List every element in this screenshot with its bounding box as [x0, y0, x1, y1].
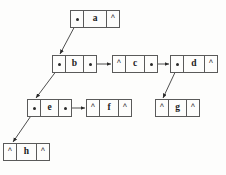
node-f[interactable]: ^f^ [86, 99, 132, 117]
nil-symbol: ^ [191, 103, 196, 111]
node-f-right-pointer: ^ [118, 100, 131, 116]
node-e-value: e [41, 100, 58, 116]
pointer-origin-dot [150, 63, 153, 66]
node-h-left-pointer: ^ [4, 144, 17, 160]
node-c-right-pointer [144, 56, 157, 72]
pointer-origin-dot [58, 63, 61, 66]
node-d-value: d [184, 56, 204, 72]
node-c[interactable]: ^c [112, 55, 158, 73]
pointer-origin-dot [76, 18, 79, 21]
node-d-left-pointer [171, 56, 184, 72]
node-e-left-pointer [28, 100, 41, 116]
nil-symbol: ^ [41, 147, 46, 155]
nil-symbol: ^ [91, 103, 96, 111]
node-g-right-pointer: ^ [186, 100, 199, 116]
node-b[interactable]: b [52, 55, 97, 73]
node-d-right-pointer: ^ [204, 56, 217, 72]
pointer-origin-dot [176, 63, 179, 66]
node-e[interactable]: e [27, 99, 72, 117]
diagram-canvas: a^b^cd^e^f^^g^^h^ [0, 0, 226, 175]
node-b-left-pointer [53, 56, 66, 72]
node-f-left-pointer: ^ [87, 100, 100, 116]
node-b-right-pointer [83, 56, 96, 72]
nil-symbol: ^ [209, 59, 214, 67]
pointer-origin-dot [89, 63, 92, 66]
node-a-right-pointer: ^ [106, 11, 119, 27]
node-d[interactable]: d^ [170, 55, 218, 73]
node-h-right-pointer: ^ [36, 144, 49, 160]
node-h-value: h [17, 144, 36, 160]
node-c-left-pointer: ^ [113, 56, 126, 72]
node-c-value: c [126, 56, 144, 72]
node-h[interactable]: ^h^ [3, 143, 50, 161]
node-a-left-pointer [71, 11, 84, 27]
node-g-left-pointer: ^ [156, 100, 169, 116]
nil-symbol: ^ [111, 14, 116, 22]
pointer-edges [13, 22, 178, 142]
nil-symbol: ^ [117, 59, 122, 67]
node-b-value: b [66, 56, 83, 72]
nil-symbol: ^ [160, 103, 165, 111]
node-g[interactable]: ^g^ [155, 99, 200, 117]
node-f-value: f [100, 100, 118, 116]
node-g-value: g [169, 100, 186, 116]
nil-symbol: ^ [123, 103, 128, 111]
pointer-origin-dot [33, 107, 36, 110]
node-a[interactable]: a^ [70, 10, 120, 28]
nil-symbol: ^ [8, 147, 13, 155]
pointer-origin-dot [64, 107, 67, 110]
node-e-right-pointer [58, 100, 71, 116]
node-a-value: a [84, 11, 106, 27]
